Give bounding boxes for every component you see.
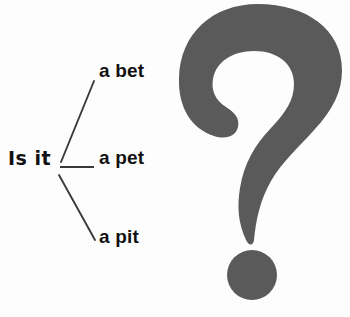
question-mark-icon — [170, 0, 350, 317]
connector-line-a-bet — [61, 81, 94, 162]
option-a-pit[interactable]: a pit — [99, 226, 139, 248]
option-a-bet[interactable]: a bet — [99, 60, 144, 82]
connector-line-a-pit — [59, 175, 95, 240]
question-mark-dot — [227, 250, 277, 300]
option-a-pet[interactable]: a pet — [99, 147, 144, 169]
worksheet-canvas: Is it a bet a pet a pit — [0, 0, 350, 317]
prompt-text: Is it — [8, 147, 51, 169]
question-mark-stroke — [179, 4, 342, 245]
